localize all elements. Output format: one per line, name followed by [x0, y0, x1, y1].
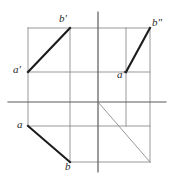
projection-figure: b'b"a'a"ab — [0, 0, 173, 179]
segment-side-view-segment — [126, 28, 150, 72]
projection-canvas — [0, 0, 173, 179]
point-label-b-double-prime: b" — [152, 17, 162, 28]
line-segments — [28, 28, 150, 162]
point-label-a: a — [17, 119, 23, 130]
reference-diagonal — [98, 102, 150, 162]
segment-front-view-segment — [28, 28, 70, 72]
diagonal-45-degree-reference-line — [98, 102, 150, 162]
point-label-a-prime: a' — [13, 64, 21, 75]
point-label-a-double-prime: a" — [117, 69, 127, 80]
coordinate-axes — [8, 12, 166, 172]
point-label-b: b — [65, 161, 71, 172]
point-label-b-prime: b' — [59, 13, 67, 24]
segment-top-view-segment — [28, 126, 70, 162]
